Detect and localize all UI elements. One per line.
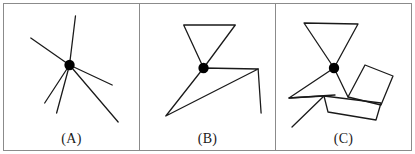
ray-right-line — [70, 65, 113, 85]
panel-c-lines — [289, 23, 393, 127]
upper-triangle-c — [304, 23, 358, 68]
tail-lower-left-c — [292, 96, 324, 127]
panel-row: (A) (B) — [4, 4, 411, 150]
upper-triangle-b — [184, 25, 236, 68]
junction-dot-b — [198, 63, 208, 73]
panel-b-label: (B) — [140, 132, 275, 146]
panel-c-drawing — [276, 4, 411, 150]
lower-quad-c — [324, 96, 381, 120]
crossing-line-b — [258, 69, 261, 113]
junction-dot-c — [329, 63, 339, 73]
panel-a-label: (A) — [4, 132, 139, 146]
panel-b-drawing — [140, 4, 275, 150]
figure-container: (A) (B) — [0, 0, 415, 154]
ray-lower-left-line — [45, 65, 70, 103]
tilted-quad-c — [348, 65, 393, 105]
ray-lower-right-line — [70, 65, 119, 122]
junction-dot-a — [64, 60, 74, 70]
panel-c-label: (C) — [276, 132, 411, 146]
ray-up-line — [70, 16, 76, 65]
lower-thin-triangle-b — [166, 68, 258, 116]
left-wedge-c — [289, 68, 335, 98]
panel-c: (C) — [276, 4, 411, 150]
panel-b: (B) — [140, 4, 276, 150]
panel-a-drawing — [4, 4, 139, 150]
panel-a-lines — [31, 16, 118, 122]
panel-a: (A) — [4, 4, 140, 150]
ray-upper-left-line — [31, 38, 70, 65]
ray-down-line — [57, 65, 70, 113]
panel-b-lines — [166, 25, 261, 116]
